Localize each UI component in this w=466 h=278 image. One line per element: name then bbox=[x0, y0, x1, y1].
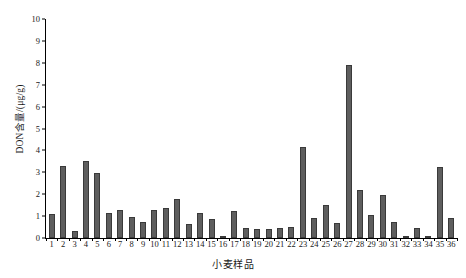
x-axis-tick-label: 17 bbox=[230, 240, 239, 249]
bar-slot bbox=[331, 14, 342, 238]
x-axis-tick-label: 22 bbox=[287, 240, 296, 249]
x-axis-tick-label: 14 bbox=[196, 240, 205, 249]
x-axis-tick-label: 35 bbox=[436, 240, 445, 249]
bar bbox=[437, 167, 443, 238]
bars-layer bbox=[46, 14, 457, 238]
y-axis-tickmark bbox=[42, 84, 46, 85]
bar bbox=[425, 236, 431, 238]
x-axis-tick-label: 10 bbox=[150, 240, 159, 249]
x-axis-tick-label: 21 bbox=[276, 240, 285, 249]
bar bbox=[106, 213, 112, 238]
bar-slot bbox=[126, 14, 137, 238]
x-axis-tick-label: 15 bbox=[207, 240, 216, 249]
bar bbox=[186, 224, 192, 238]
bar-slot bbox=[206, 14, 217, 238]
x-axis-tick-label: 27 bbox=[344, 240, 353, 249]
x-axis-tick-label: 1 bbox=[50, 240, 54, 249]
bar-slot bbox=[46, 14, 57, 238]
bar bbox=[357, 190, 363, 238]
bar-slot bbox=[149, 14, 160, 238]
bar-slot bbox=[434, 14, 445, 238]
bar bbox=[254, 229, 260, 238]
bar bbox=[83, 161, 89, 238]
bar bbox=[311, 218, 317, 238]
x-axis-tick-label: 32 bbox=[401, 240, 410, 249]
x-axis-tick-label: 18 bbox=[242, 240, 251, 249]
bar-slot bbox=[320, 14, 331, 238]
y-axis-title: DON含量/(μg/g) bbox=[8, 0, 30, 238]
x-axis-tick-label: 8 bbox=[130, 240, 134, 249]
x-axis-tickmark bbox=[457, 238, 458, 241]
x-axis-tick-label: 3 bbox=[72, 240, 76, 249]
x-axis-tick-label: 12 bbox=[173, 240, 182, 249]
bar bbox=[300, 147, 306, 238]
bar bbox=[334, 223, 340, 238]
bar bbox=[448, 218, 454, 238]
bar-slot bbox=[389, 14, 400, 238]
bar-slot bbox=[103, 14, 114, 238]
bar-slot bbox=[274, 14, 285, 238]
y-axis-tickmark bbox=[42, 172, 46, 173]
bar bbox=[368, 215, 374, 238]
x-axis-title-text: 小麦样品 bbox=[212, 259, 254, 270]
bar bbox=[403, 236, 409, 238]
bar-slot bbox=[217, 14, 228, 238]
bar-slot bbox=[286, 14, 297, 238]
x-axis-tick-labels: 1234567891011121314151617181920212223242… bbox=[46, 240, 457, 254]
bar-slot bbox=[172, 14, 183, 238]
bar bbox=[323, 205, 329, 238]
x-axis-tick-label: 20 bbox=[264, 240, 273, 249]
bar bbox=[209, 219, 215, 238]
x-axis-tick-label: 34 bbox=[424, 240, 433, 249]
bar-slot bbox=[446, 14, 457, 238]
x-axis-tick-label: 28 bbox=[356, 240, 365, 249]
bar-slot bbox=[377, 14, 388, 238]
bar bbox=[151, 210, 157, 238]
bar-slot bbox=[400, 14, 411, 238]
x-axis-tick-label: 24 bbox=[310, 240, 319, 249]
bar-slot bbox=[309, 14, 320, 238]
bar-slot bbox=[57, 14, 68, 238]
bar-slot bbox=[252, 14, 263, 238]
plot-area: 012345678910 bbox=[45, 14, 457, 238]
bar-slot bbox=[69, 14, 80, 238]
x-axis-tick-label: 25 bbox=[321, 240, 330, 249]
bar-slot bbox=[263, 14, 274, 238]
x-axis-tick-label: 33 bbox=[413, 240, 422, 249]
x-axis-tick-label: 11 bbox=[162, 240, 170, 249]
y-axis-tickmark bbox=[42, 238, 46, 239]
bar-slot bbox=[80, 14, 91, 238]
bar-slot bbox=[411, 14, 422, 238]
bar bbox=[266, 229, 272, 238]
y-axis-tickmark bbox=[42, 40, 46, 41]
y-axis-tickmark bbox=[42, 150, 46, 151]
bar bbox=[288, 227, 294, 238]
bar-slot bbox=[366, 14, 377, 238]
x-axis-tick-label: 6 bbox=[107, 240, 111, 249]
bar-slot bbox=[240, 14, 251, 238]
bar-slot bbox=[297, 14, 308, 238]
x-axis-tick-label: 30 bbox=[379, 240, 388, 249]
bar bbox=[129, 217, 135, 238]
x-axis-tick-label: 19 bbox=[253, 240, 262, 249]
y-axis-tickmark bbox=[42, 106, 46, 107]
y-axis-title-text: DON含量/(μg/g) bbox=[12, 84, 26, 153]
bar bbox=[243, 228, 249, 238]
bar-chart: DON含量/(μg/g) 012345678910 12345678910111… bbox=[0, 0, 466, 278]
bar bbox=[231, 211, 237, 238]
bar-slot bbox=[137, 14, 148, 238]
bar bbox=[220, 236, 226, 238]
bar-slot bbox=[423, 14, 434, 238]
bar bbox=[60, 166, 66, 238]
x-axis-tick-label: 36 bbox=[447, 240, 456, 249]
y-axis-tickmark bbox=[42, 62, 46, 63]
y-axis-tickmark bbox=[42, 128, 46, 129]
bar bbox=[391, 222, 397, 238]
x-axis-tick-label: 13 bbox=[184, 240, 193, 249]
bar-slot bbox=[160, 14, 171, 238]
x-axis-tick-label: 16 bbox=[219, 240, 228, 249]
bar bbox=[140, 222, 146, 238]
y-axis-tickmark bbox=[42, 194, 46, 195]
bar bbox=[414, 228, 420, 238]
x-axis-tick-label: 4 bbox=[84, 240, 88, 249]
